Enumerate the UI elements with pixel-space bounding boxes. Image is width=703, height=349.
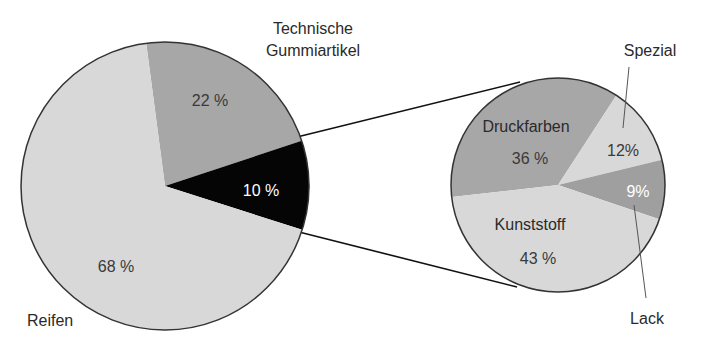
value-label-lack: 9%	[626, 183, 649, 200]
pie-chart-figure: Technische Gummiartikel 22 % 10 % 68 % R…	[0, 0, 703, 349]
value-label-reifen: 68 %	[98, 258, 134, 275]
label-druckfarben: Druckfarben	[482, 118, 569, 135]
label-technische-line2: Gummiartikel	[266, 42, 360, 59]
label-technische-line1: Technische	[273, 20, 353, 37]
value-label-gummiartikel: 22 %	[192, 92, 228, 109]
label-reifen: Reifen	[27, 312, 73, 329]
value-label-sonstige: 10 %	[243, 182, 279, 199]
value-label-spezial: 12%	[607, 142, 639, 159]
label-spezial: Spezial	[624, 42, 676, 59]
value-label-kunststoff: 43 %	[520, 250, 556, 267]
value-label-druckfarben: 36 %	[512, 150, 548, 167]
label-kunststoff: Kunststoff	[495, 216, 566, 233]
label-lack: Lack	[630, 310, 665, 327]
